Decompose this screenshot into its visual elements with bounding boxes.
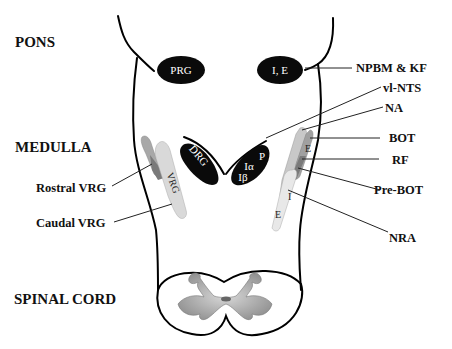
label-npbm-kf: NPBM & KF — [356, 61, 427, 75]
label-vl-nts: vl-NTS — [383, 81, 421, 95]
nucleus-ie: I, E — [257, 56, 303, 84]
label-bot: BOT — [389, 131, 416, 145]
label-caudal-vrg: Caudal VRG — [36, 216, 106, 230]
svg-text:E: E — [275, 209, 281, 220]
svg-text:I, E: I, E — [272, 64, 288, 76]
label-pre-bot: Pre-BOT — [374, 183, 424, 197]
nucleus-prg: PRG — [157, 56, 205, 84]
svg-text:P: P — [259, 150, 265, 162]
respiratory-centers-diagram: PONS MEDULLA SPINAL CORD PRG I, E DRG P … — [0, 0, 452, 349]
label-rostral-vrg: Rostral VRG — [36, 181, 107, 195]
label-nra: NRA — [389, 231, 416, 245]
region-label-medulla: MEDULLA — [15, 139, 92, 155]
svg-text:E: E — [305, 143, 311, 154]
svg-text:PRG: PRG — [170, 64, 191, 76]
nucleus-vl-nts: P Iα Iβ — [231, 145, 269, 185]
spinal-gray-matter — [178, 273, 272, 320]
central-canal — [221, 297, 231, 302]
svg-text:I: I — [288, 191, 291, 202]
brainstem-outline — [118, 16, 333, 335]
right-vrg-column: E I E — [272, 127, 313, 231]
nucleus-drg: DRG — [180, 143, 218, 185]
region-label-spinal-cord: SPINAL CORD — [14, 291, 116, 307]
label-na: NA — [385, 101, 403, 115]
svg-text:Iβ: Iβ — [238, 171, 248, 183]
label-rf: RF — [392, 153, 409, 167]
region-label-pons: PONS — [15, 34, 55, 50]
